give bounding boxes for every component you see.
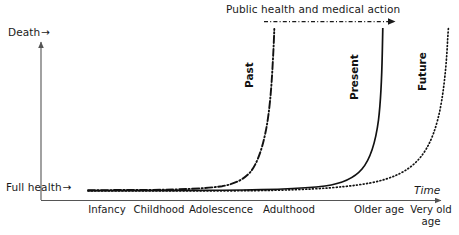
stage-label-childhood: Childhood — [130, 204, 188, 216]
stage-label-adolescence: Adolescence — [188, 204, 254, 216]
stage-label-very-old-age: Very old age — [408, 204, 454, 228]
figure-canvas — [0, 0, 459, 235]
curve-label-present: Present — [348, 54, 360, 100]
stage-label-older-age: Older age — [352, 204, 406, 216]
y-axis-bottom-label-group: Full health→ — [6, 181, 72, 193]
y-axis-top-arrow-icon: → — [41, 26, 50, 38]
y-axis-top-label-group: Death→ — [8, 26, 50, 38]
curve-future — [88, 29, 448, 192]
curve-present — [88, 28, 383, 191]
stage-label-adulthood: Adulthood — [258, 204, 320, 216]
y-axis-top-label: Death — [8, 26, 40, 38]
curve-label-future: Future — [416, 52, 428, 91]
public-health-action-label: Public health and medical action — [226, 3, 400, 15]
stage-label-infancy: Infancy — [86, 204, 128, 216]
y-axis-bottom-arrow-icon: → — [63, 181, 72, 193]
health-trajectory-figure: Public health and medical action Death→ … — [0, 0, 459, 235]
y-axis-bottom-label: Full health — [6, 181, 62, 193]
curve-label-past: Past — [243, 62, 255, 88]
x-axis-label: Time — [414, 184, 440, 196]
curve-past — [88, 29, 274, 190]
